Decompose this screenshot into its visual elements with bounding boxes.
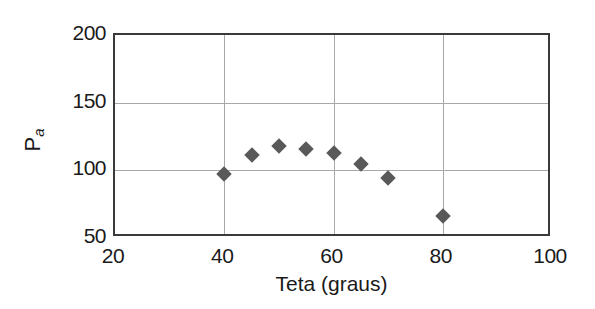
y-axis-label: Pa bbox=[19, 115, 59, 165]
x-tick-label: 40 bbox=[182, 245, 262, 266]
x-axis-label: Teta (graus) bbox=[113, 272, 550, 296]
x-tick-label: 80 bbox=[401, 245, 481, 266]
y-axis-label-subscript: a bbox=[30, 128, 47, 136]
y-axis-label-variable: P bbox=[20, 137, 45, 152]
x-tick-label: 60 bbox=[292, 245, 372, 266]
chart-figure: 50100150200 20406080100 Teta (graus) Pa bbox=[0, 0, 595, 309]
x-tick-label: 100 bbox=[510, 245, 590, 266]
x-axis-tick-labels: 20406080100 bbox=[0, 0, 595, 309]
x-tick-label: 20 bbox=[73, 245, 153, 266]
